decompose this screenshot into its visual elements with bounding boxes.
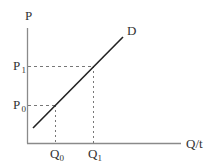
q1-label: Q 1 bbox=[88, 146, 102, 163]
y-axis-label: P bbox=[25, 8, 32, 23]
p0-label: P 0 bbox=[13, 97, 27, 114]
svg-text:1: 1 bbox=[98, 153, 103, 163]
svg-text:Q: Q bbox=[50, 146, 60, 161]
curve-label: D bbox=[127, 23, 136, 38]
svg-text:Q: Q bbox=[88, 146, 98, 161]
svg-text:0: 0 bbox=[60, 153, 65, 163]
svg-text:P: P bbox=[13, 58, 20, 73]
svg-text:0: 0 bbox=[22, 104, 27, 114]
svg-text:1: 1 bbox=[22, 65, 27, 75]
q0-label: Q 0 bbox=[50, 146, 65, 163]
x-axis-label: Q/t bbox=[186, 136, 203, 151]
demand-curve bbox=[33, 37, 123, 128]
p1-label: P 1 bbox=[13, 58, 26, 75]
demand-diagram: P D Q/t P 1 P 0 Q 0 Q 1 bbox=[0, 0, 220, 167]
svg-text:P: P bbox=[13, 97, 20, 112]
